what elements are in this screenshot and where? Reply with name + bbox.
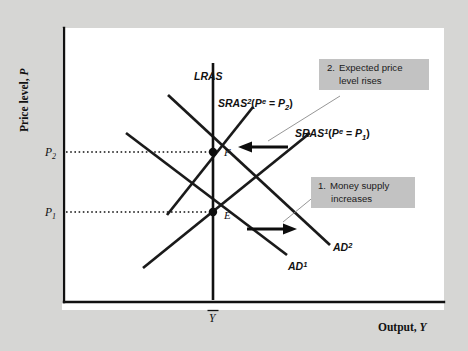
y-axis-title: Price level, P [18,67,30,132]
equilibrium-point-e [209,208,217,216]
equilibrium-label-e: E [223,209,231,221]
ad-as-diagram: 2.Expected price level rises 1.Money sup… [0,0,468,351]
callout-money-supply: 1.Money supply increases [311,177,415,208]
x-axis-title: Output, Y [378,321,428,334]
callout-money-supply-line2: increases [331,193,372,204]
equilibrium-point-f [209,148,217,156]
label-lras: LRAS [194,70,223,82]
equilibrium-label-f: F [223,146,231,158]
callout-expected-price-line2: level rises [339,75,382,86]
callout-expected-price: 2.Expected price level rises [319,59,429,90]
callout-expected-price-line1: 2.Expected price [327,62,402,73]
